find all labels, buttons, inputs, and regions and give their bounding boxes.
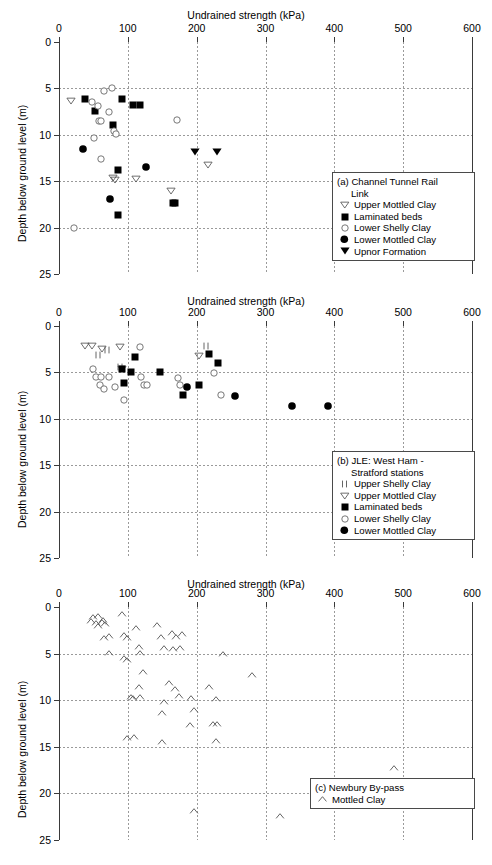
open-down-triangle-icon [337,201,352,209]
x-tick-label: 100 [119,306,137,318]
data-point [86,618,95,624]
y-tick-label: 15 [29,175,51,187]
x-tick-label: 200 [188,306,206,318]
data-point [139,669,148,675]
x-tick-label: 300 [257,306,275,318]
x-tick [403,37,404,42]
data-point [101,621,110,627]
data-point [97,155,105,163]
y-tick [54,326,59,327]
y-tick [54,700,59,701]
data-point [132,625,141,631]
data-point [136,343,144,351]
data-point [167,630,176,636]
y-tick [54,42,59,43]
data-point [97,373,105,381]
data-point [159,645,168,651]
x-tick [334,321,335,326]
data-point [109,121,117,129]
data-point [81,95,89,103]
data-point [156,634,165,640]
data-point [100,635,109,641]
y-tick-label: 5 [29,82,51,94]
data-point [130,734,139,740]
legend-entry-label: Lower Shelly Clay [354,222,431,234]
y-tick-label: 0 [29,36,51,48]
data-point [79,144,88,153]
legend-entry-label: Upnor Formation [354,246,426,258]
x-tick-label: 200 [188,22,206,34]
x-tick-label: 300 [257,587,275,599]
y-tick [54,840,59,841]
data-point [105,373,113,381]
x-tick [334,37,335,42]
y-tick-label: 25 [29,834,51,846]
filled-circle-icon [337,526,352,535]
data-point [183,383,192,392]
y-tick [54,419,59,420]
data-point [104,346,111,354]
panel-a: Undrained strength (kPa) Depth below gro… [0,0,492,290]
x-tick-label: 600 [463,306,481,318]
panel-a-legend: (a) Channel Tunnel RailLinkUpper Mottled… [332,172,475,261]
y-tick [54,465,59,466]
x-tick [334,602,335,607]
y-tick [54,607,59,608]
y-tick [54,88,59,89]
legend-entry-label: Lower Shelly Clay [354,513,431,525]
data-point [166,187,176,195]
data-point [152,622,161,628]
y-tick [54,274,59,275]
y-tick-label: 10 [29,129,51,141]
data-point [105,108,113,116]
x-tick [403,321,404,326]
y-tick-label: 0 [29,320,51,332]
y-axis-left-spine [59,607,60,840]
data-point [131,353,139,361]
x-tick [59,602,60,607]
y-tick-label: 15 [29,459,51,471]
filled-circle-icon [337,235,352,244]
figure-root: Undrained strength (kPa) Depth below gro… [0,0,492,865]
legend-entry-label: Upper Mottled Clay [354,199,436,211]
x-tick-label: 0 [56,306,62,318]
legend-entry-label: Laminated beds [354,211,422,223]
open-up-chevron-icon [315,796,330,802]
data-point [209,721,218,727]
legend-entry: Lower Shelly Clay [337,513,469,525]
x-tick-label: 600 [463,22,481,34]
data-point [288,402,297,411]
data-point [324,402,333,411]
x-tick [266,321,267,326]
data-point [248,672,257,678]
x-gridline [128,326,129,558]
x-tick-label: 400 [326,587,344,599]
y-tick-label: 20 [29,506,51,518]
data-point [111,383,119,391]
y-tick [54,228,59,229]
data-point [93,613,102,619]
data-point [136,694,145,700]
legend-entry: Lower Mottled Clay [337,234,469,246]
x-tick-label: 500 [394,22,412,34]
x-tick [472,321,473,326]
legend-title: (a) Channel Tunnel Rail [337,176,469,188]
y-tick-label: 20 [29,787,51,799]
filled-square-icon [337,503,352,511]
y-tick-label: 20 [29,222,51,234]
x-tick-label: 500 [394,587,412,599]
x-tick-label: 0 [56,22,62,34]
y-tick [54,558,59,559]
data-point [176,645,185,651]
filled-square-icon [337,213,352,221]
x-tick-label: 100 [119,587,137,599]
data-point [89,614,98,620]
data-point [213,721,222,727]
data-point [171,199,179,207]
data-point [106,195,115,204]
y-tick-label: 15 [29,741,51,753]
data-point [66,97,76,105]
data-point [97,619,106,625]
double-bar-icon [337,480,352,488]
data-point [165,680,174,686]
